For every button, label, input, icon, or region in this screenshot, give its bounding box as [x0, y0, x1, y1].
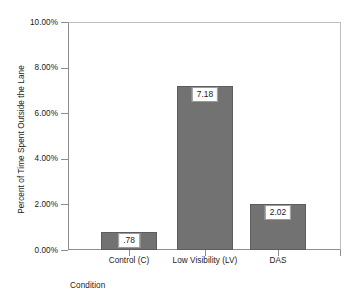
x-tick-label-low-visibility-lv: Low Visibility (LV) [173, 256, 238, 265]
y-tick-label: 2.00% [0, 200, 58, 209]
y-tick-mark [61, 159, 68, 160]
y-tick-label: 8.00% [0, 63, 58, 72]
bar-value-label: .78 [118, 233, 140, 248]
y-tick-label: 4.00% [0, 154, 58, 163]
x-tick-label-control-c: Control (C) [109, 256, 150, 265]
y-tick-mark [61, 22, 68, 23]
x-tick-mark [340, 250, 341, 256]
bar-value-label: 7.18 [192, 87, 218, 102]
y-tick-label: 10.00% [0, 18, 58, 27]
y-tick-mark [61, 204, 68, 205]
x-tick-label-das: DAS [270, 256, 287, 265]
bar-low-visibility-lv [177, 86, 233, 250]
x-axis-title: Condition [70, 281, 105, 290]
y-tick-label: 6.00% [0, 109, 58, 118]
y-tick-label: 0.00% [0, 246, 58, 255]
bar-value-label: 2.02 [265, 205, 291, 220]
y-tick-mark [61, 68, 68, 69]
bar-chart: Percent of Time Spent Outside the Lane C… [0, 0, 351, 306]
y-tick-mark [61, 250, 68, 251]
y-tick-mark [61, 113, 68, 114]
